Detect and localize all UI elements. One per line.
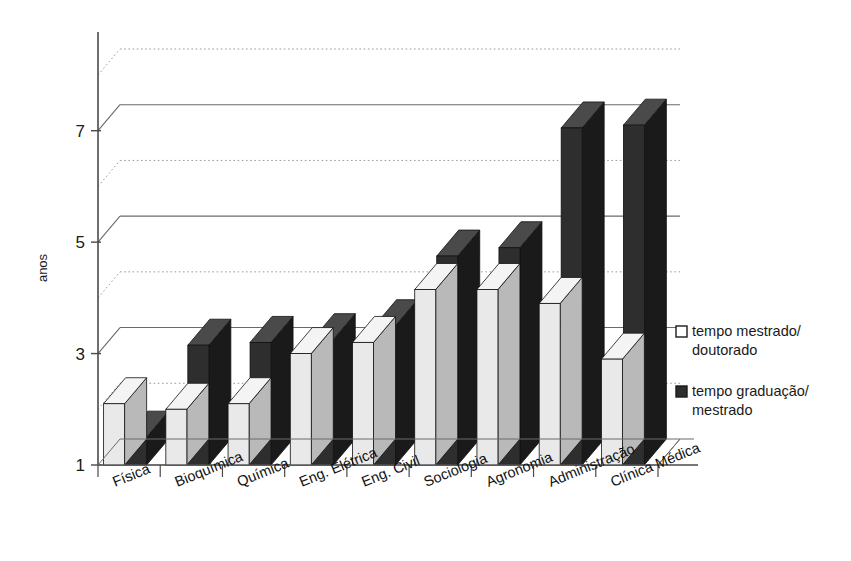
legend: tempo mestrado/doutoradotempo graduação/… [676, 323, 810, 418]
y-axis-tick-label: 7 [76, 122, 85, 141]
y-axis-tick-label: 1 [76, 456, 85, 475]
bar-light [290, 328, 333, 465]
bar-series-group [104, 99, 667, 465]
legend-item[interactable]: tempo graduação/mestrado [676, 383, 810, 418]
legend-swatch-light [676, 326, 687, 337]
y-axis-ticks: 1357 [76, 122, 101, 475]
bar-light [353, 316, 396, 465]
legend-label-line2: mestrado [692, 402, 752, 418]
bar-light [415, 264, 458, 466]
legend-item[interactable]: tempo mestrado/doutorado [676, 323, 802, 358]
bar-light [539, 277, 582, 465]
legend-label-line2: doutorado [692, 342, 757, 358]
chart-container: 1357 FísicaBioquímicaQuímicaEng. Elétric… [0, 0, 851, 561]
y-axis-label: anos [35, 253, 50, 282]
legend-swatch-dark [676, 386, 687, 397]
bar-chart: 1357 FísicaBioquímicaQuímicaEng. Elétric… [0, 0, 851, 561]
bar-light [477, 264, 520, 466]
legend-label-line1: tempo mestrado/ [692, 323, 802, 339]
y-axis-tick-label: 3 [76, 345, 85, 364]
y-axis-tick-label: 5 [76, 233, 85, 252]
legend-label-line1: tempo graduação/ [692, 383, 810, 399]
